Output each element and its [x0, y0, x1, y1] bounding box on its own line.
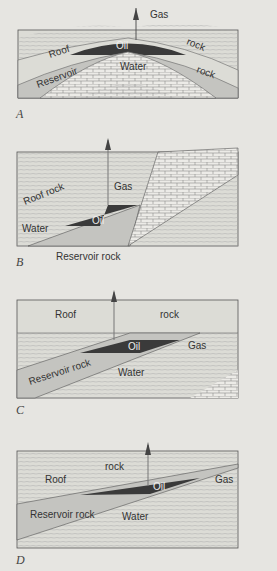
- label-oil: Oil: [92, 215, 104, 226]
- panel-c: Roof rock Oil Gas Reservoir rock Water C: [16, 290, 238, 417]
- panel-a: Gas Oil Water Roof rock Reservoir rock A: [15, 8, 238, 121]
- label-reservoir-rock: Reservoir rock: [56, 251, 121, 262]
- label-oil: Oil: [128, 341, 140, 352]
- panel-b: Roof rock Gas Oil Water Reservoir rock B: [16, 138, 238, 269]
- panel-letter: D: [15, 553, 25, 567]
- label-water: Water: [120, 61, 147, 72]
- label-gas: Gas: [215, 474, 233, 485]
- label-reservoir-rock: Reservoir rock: [30, 509, 95, 520]
- label-gas: Gas: [150, 9, 168, 20]
- label-water: Water: [118, 367, 145, 378]
- panel-letter: B: [16, 255, 24, 269]
- panel-letter: C: [16, 403, 25, 417]
- label-roof: Roof: [55, 309, 76, 320]
- label-rock: rock: [105, 461, 125, 472]
- label-gas: Gas: [188, 340, 206, 351]
- panel-d: Roof rock Oil Gas Reservoir rock Water D: [15, 442, 238, 567]
- oil-trap-diagram: Gas Oil Water Roof rock Reservoir rock A…: [0, 0, 277, 571]
- panel-letter: A: [15, 107, 24, 121]
- label-rock: rock: [160, 309, 180, 320]
- label-oil: Oil: [116, 40, 128, 51]
- label-gas: Gas: [114, 181, 132, 192]
- label-water: Water: [122, 511, 149, 522]
- label-water: Water: [22, 223, 49, 234]
- label-oil: Oil: [153, 481, 165, 492]
- label-roof: Roof: [45, 474, 66, 485]
